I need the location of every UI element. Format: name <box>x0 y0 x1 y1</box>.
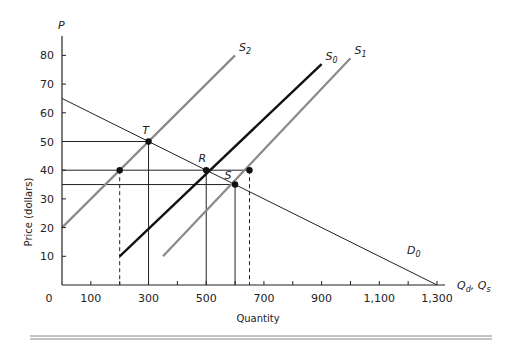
s2-label: S2 <box>239 41 251 56</box>
y-tick-label: 30 <box>40 193 54 206</box>
s1-curve <box>163 58 351 256</box>
s0-label: S0 <box>326 50 338 65</box>
y-axis-symbol: P <box>58 19 65 32</box>
x-tick-label: 0 <box>46 292 53 305</box>
x-tick-label: 900 <box>311 292 332 305</box>
point-label-s: S <box>225 169 232 182</box>
points <box>116 138 252 187</box>
y-tick-label: 40 <box>40 164 54 177</box>
x-tick-label: 700 <box>253 292 274 305</box>
labels: P Quantity Price (dollars) D0S0S1S2Qd, Q… <box>23 19 491 324</box>
s1-label: S1 <box>354 44 366 59</box>
s0-curve <box>120 64 322 256</box>
x-tick-label: 1,300 <box>421 292 453 305</box>
x-axis-symbol: Qd, Qs <box>457 279 491 294</box>
y-tick-label: 20 <box>40 222 54 235</box>
equilibrium-point <box>232 181 238 187</box>
guide-lines <box>62 142 250 286</box>
ticks: 102030405060708001003005007009001,1001,3… <box>40 49 453 305</box>
equilibrium-point <box>203 167 209 173</box>
equilibrium-point <box>145 138 151 144</box>
point-label-r: R <box>198 152 206 165</box>
x-tick-label: 300 <box>138 292 159 305</box>
x-axis-title: Quantity <box>236 313 279 324</box>
x-tick-label: 100 <box>80 292 101 305</box>
supply-demand-chart: 102030405060708001003005007009001,1001,3… <box>0 0 515 343</box>
y-axis-title: Price (dollars) <box>23 177 34 246</box>
x-tick-label: 1,100 <box>364 292 396 305</box>
y-tick-label: 50 <box>40 136 54 149</box>
x-tick-label: 500 <box>196 292 217 305</box>
point-label-t: T <box>142 124 150 137</box>
y-tick-label: 70 <box>40 78 54 91</box>
d0-label: D0 <box>407 244 421 259</box>
y-tick-label: 10 <box>40 250 54 263</box>
equilibrium-point <box>116 167 122 173</box>
y-tick-label: 60 <box>40 107 54 120</box>
y-tick-label: 80 <box>40 49 54 62</box>
equilibrium-point <box>246 167 252 173</box>
